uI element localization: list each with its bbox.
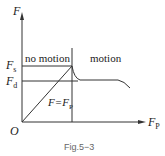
origin-label: O bbox=[10, 124, 19, 138]
fs-label: Fs bbox=[5, 58, 16, 74]
figure-caption: Fig.5−3 bbox=[64, 142, 94, 152]
y-axis-label: F bbox=[12, 4, 21, 18]
line-equation-label: F=FP bbox=[47, 96, 73, 111]
fd-label: Fd bbox=[5, 74, 17, 90]
region-no-motion-label: no motion bbox=[25, 52, 70, 64]
region-motion-label: motion bbox=[90, 52, 122, 64]
x-axis-arrow-icon bbox=[138, 120, 146, 124]
y-axis-arrow-icon bbox=[20, 12, 24, 20]
static-friction-line bbox=[22, 66, 72, 122]
x-axis-label: FP bbox=[147, 115, 160, 131]
friction-diagram: F FP O Fs Fd no motion motion F=FP Fig.5… bbox=[0, 0, 165, 156]
kinetic-friction-curve bbox=[72, 66, 130, 88]
